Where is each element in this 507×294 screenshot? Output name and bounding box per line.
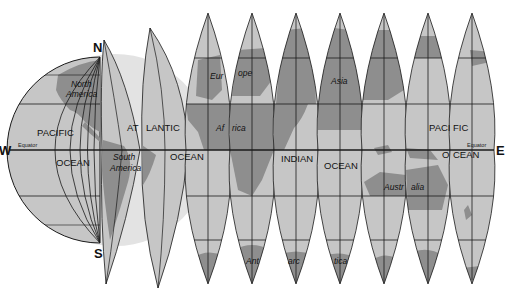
south-label: S — [94, 246, 103, 261]
antarctica-label-1: Ant — [245, 256, 259, 266]
west-label: W — [0, 143, 12, 158]
europe-label-1: Eur — [210, 71, 224, 81]
atlantic-label-2: LANTIC — [146, 122, 180, 133]
land-mass — [414, 36, 444, 58]
north-america-label-2: America — [65, 89, 97, 99]
gore-7 — [354, 13, 414, 284]
europe-label-2: ope — [238, 68, 252, 78]
pacific-east-label-1: PACI — [429, 122, 450, 133]
antarctica-label-2: arc — [288, 256, 301, 266]
pacific-east-label-4: CEAN — [453, 149, 480, 160]
gore-map: N S W E Equator Equator PACIFIC OCEAN AT… — [0, 0, 507, 294]
gore-5 — [266, 13, 326, 284]
atlantic-label-1: AT — [127, 122, 139, 133]
pacific-west-label-2: OCEAN — [56, 157, 90, 168]
indian-ocean-label: OCEAN — [324, 160, 358, 171]
atlantic-label-3: OCEAN — [170, 151, 204, 162]
gore-6 — [310, 13, 370, 284]
east-label: E — [496, 143, 505, 158]
asia-label: Asia — [330, 76, 348, 86]
south-america-label-2: America — [109, 163, 141, 173]
south-america-label-1: South — [113, 152, 135, 162]
north-label: N — [93, 40, 102, 55]
land-mass — [362, 30, 404, 100]
australia-label-1: Austr — [383, 182, 405, 192]
australia-label-2: alia — [411, 182, 425, 192]
north-america-label-1: North — [71, 79, 92, 89]
gore-3 — [178, 13, 238, 284]
equator-label-east: Equator — [467, 142, 486, 148]
pacific-east-label-2: FIC — [453, 122, 468, 133]
antarctica-label-3: tica — [334, 256, 348, 266]
gore-4 — [222, 13, 282, 284]
pacific-east-label-3: O — [442, 149, 449, 160]
pacific-west-label-1: PACIFIC — [37, 127, 74, 138]
equator-label-west: Equator — [18, 142, 37, 148]
indian-label: INDIAN — [281, 153, 313, 164]
africa-label-2: rica — [232, 123, 246, 133]
